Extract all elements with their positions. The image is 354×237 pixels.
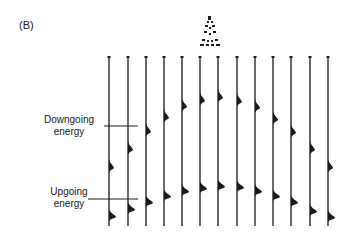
seismic-trace: [108, 56, 117, 226]
downgoing-wavelet: [109, 159, 114, 173]
trace-group: [108, 56, 336, 226]
upgoing-wavelet: [328, 210, 335, 222]
downgoing-wavelet: [310, 141, 315, 155]
seismic-trace: [127, 56, 136, 226]
downgoing-wavelet: [273, 111, 278, 125]
upgoing-wavelet: [109, 209, 116, 221]
upgoing-wavelet: [273, 189, 280, 201]
upgoing-wavelet: [291, 195, 298, 207]
seismic-trace: [309, 56, 318, 226]
seismic-trace: [236, 56, 245, 226]
upgoing-wavelet: [164, 189, 171, 201]
upgoing-wavelet: [237, 180, 244, 192]
upgoing-wavelet: [182, 184, 189, 196]
seismic-trace: [254, 56, 263, 226]
upgoing-wavelet: [255, 184, 262, 196]
downgoing-wavelet: [164, 109, 169, 123]
seismic-trace: [327, 56, 336, 226]
upgoing-wavelet: [146, 195, 153, 207]
downgoing-wavelet: [255, 99, 260, 113]
seismic-trace: [163, 56, 172, 226]
seismic-trace: [290, 56, 299, 226]
seismic-trace: [145, 56, 154, 226]
downgoing-wavelet: [128, 141, 133, 155]
seismic-trace: [272, 56, 281, 226]
downgoing-wavelet: [328, 159, 333, 173]
upgoing-wavelet: [200, 181, 207, 193]
seismic-trace: [217, 56, 226, 226]
downgoing-wavelet: [200, 92, 205, 106]
derrick-icon: [200, 16, 220, 46]
upgoing-wavelet: [218, 179, 225, 191]
upgoing-wavelet: [128, 202, 135, 214]
downgoing-wavelet: [291, 124, 296, 138]
upgoing-wavelet: [310, 204, 317, 216]
vsp-trace-plot: [0, 0, 354, 237]
downgoing-wavelet: [237, 93, 242, 107]
seismic-trace: [181, 56, 190, 226]
downgoing-wavelet: [146, 123, 151, 137]
seismic-trace: [199, 56, 208, 226]
downgoing-wavelet: [182, 98, 187, 112]
downgoing-wavelet: [218, 89, 223, 103]
